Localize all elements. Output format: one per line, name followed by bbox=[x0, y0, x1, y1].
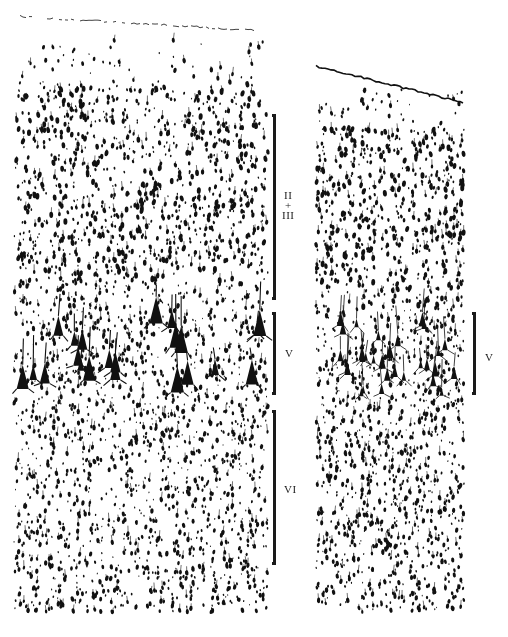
bracket-layer-6 bbox=[273, 410, 276, 565]
layer-label: V bbox=[485, 352, 493, 362]
layer-label: II+III bbox=[282, 190, 295, 220]
layer-label-line: VI bbox=[284, 484, 297, 494]
layer-label-line: V bbox=[485, 352, 493, 362]
layer-label-line: III bbox=[282, 210, 295, 220]
bracket-layer-5-left bbox=[273, 312, 276, 395]
layer-label-line: V bbox=[285, 348, 293, 358]
cortical-section-stipple-drawing bbox=[0, 0, 508, 637]
bracket-layer-2-3 bbox=[273, 114, 276, 300]
layer-label: VI bbox=[284, 484, 297, 494]
layer-label: V bbox=[285, 348, 293, 358]
bracket-layer-5-right bbox=[473, 312, 476, 395]
